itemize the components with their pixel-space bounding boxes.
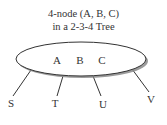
edge-u bbox=[93, 76, 101, 96]
key-b: B bbox=[76, 54, 83, 66]
key-c: C bbox=[98, 54, 105, 66]
child-u: U bbox=[99, 98, 107, 110]
edge-s bbox=[13, 70, 31, 96]
child-v: V bbox=[147, 93, 155, 105]
edge-t bbox=[57, 76, 63, 96]
edge-v bbox=[132, 69, 149, 92]
key-a: A bbox=[53, 54, 61, 66]
child-s: S bbox=[8, 97, 14, 109]
child-t: T bbox=[52, 97, 59, 109]
tree-diagram: A B C S T U V bbox=[0, 0, 167, 125]
